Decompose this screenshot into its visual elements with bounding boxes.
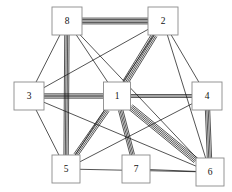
node-label: 8 (65, 16, 70, 26)
edge-segment (121, 110, 133, 155)
graph-edge (44, 29, 148, 87)
graph-edge (123, 33, 157, 83)
graph-node-1[interactable]: 1 (104, 82, 131, 110)
graph-node-4[interactable]: 4 (192, 82, 222, 110)
node-label: 5 (64, 164, 69, 174)
edge-segment (44, 29, 148, 87)
node-label: 1 (115, 91, 120, 101)
graph-edge (44, 94, 104, 98)
edge-segment (80, 104, 192, 162)
graph-edge (119, 109, 135, 155)
edge-segment (123, 109, 135, 154)
edge-segment (128, 37, 157, 84)
graph-edge (80, 104, 192, 162)
node-label: 2 (161, 16, 166, 26)
graph-node-8[interactable]: 8 (52, 7, 82, 35)
edge-segment (130, 108, 196, 162)
graph-diagram-canvas: 12345678 (0, 0, 232, 192)
graph-node-5[interactable]: 5 (52, 155, 80, 183)
node-label: 4 (205, 91, 210, 101)
node-label: 3 (27, 91, 32, 101)
edge-segment (75, 110, 106, 155)
graph-node-2[interactable]: 2 (148, 7, 178, 35)
edge-segment (127, 36, 156, 83)
edge-segment (74, 109, 105, 154)
edge-segment (119, 111, 131, 156)
graph-edge (36, 35, 60, 82)
edge-segment (132, 105, 198, 159)
graph-node-6[interactable]: 6 (196, 158, 224, 186)
edge-segment (36, 35, 60, 82)
graph-svg: 12345678 (0, 0, 232, 192)
graph-edge (36, 110, 59, 155)
edge-segment (171, 35, 199, 82)
graph-edge (129, 105, 198, 163)
node-label: 7 (134, 164, 139, 174)
graph-edge (171, 35, 199, 82)
edge-segment (120, 110, 132, 155)
edge-segment (126, 35, 155, 82)
graph-edge (131, 95, 193, 98)
edge-segment (76, 110, 107, 155)
node-label: 6 (208, 167, 213, 177)
graph-node-3[interactable]: 3 (14, 82, 44, 110)
edge-segment (36, 110, 59, 155)
graph-node-7[interactable]: 7 (122, 155, 150, 183)
graph-edge (82, 18, 148, 24)
graph-edge (205, 110, 211, 158)
edge-segment (131, 106, 197, 160)
